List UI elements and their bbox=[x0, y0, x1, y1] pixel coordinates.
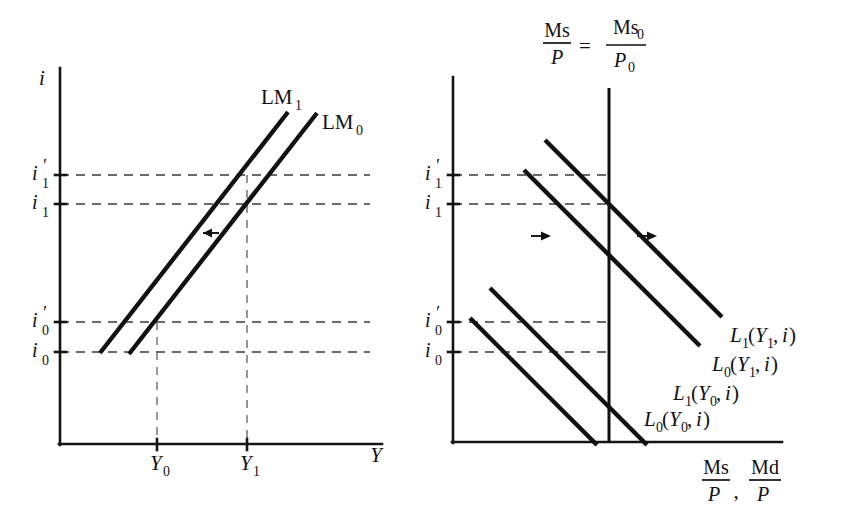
svg-text:,: , bbox=[733, 479, 738, 503]
svg-text:LM: LM bbox=[261, 85, 293, 109]
curve-L0-Y1 bbox=[524, 170, 700, 346]
svg-text:Y: Y bbox=[240, 451, 254, 475]
lm-shift-arrow bbox=[203, 229, 219, 238]
svg-text:′: ′ bbox=[435, 156, 440, 176]
curve-L1-Y1 bbox=[545, 140, 722, 317]
svg-text:,: , bbox=[755, 352, 760, 376]
right-ytick-label-i1: i 1 bbox=[425, 191, 442, 220]
svg-text:(: ( bbox=[730, 352, 737, 376]
curve-lm1 bbox=[100, 112, 288, 353]
right-ytick-label-i1prime: i ′ 1 bbox=[425, 156, 442, 191]
right-ytick-label-i0: i 0 bbox=[425, 339, 442, 368]
svg-text:′: ′ bbox=[435, 303, 440, 323]
left-ytick-label-i1prime: i ′ 1 bbox=[32, 156, 49, 191]
svg-text:Y: Y bbox=[150, 451, 164, 475]
curve-label-L1-Y1: L 1 ( Y 1 , i ) bbox=[729, 323, 796, 351]
svg-text:,: , bbox=[716, 381, 721, 405]
svg-text:0: 0 bbox=[435, 353, 442, 368]
svg-text:=: = bbox=[579, 34, 591, 58]
svg-text:i: i bbox=[764, 352, 770, 376]
figure-canvas: i Y i ′ 1 i 1 i ′ 0 i 0 Y 0 Y 1 bbox=[0, 0, 868, 526]
svg-text:,: , bbox=[687, 407, 692, 431]
svg-text:): ) bbox=[732, 381, 739, 405]
svg-text:i: i bbox=[696, 407, 702, 431]
svg-text:0: 0 bbox=[163, 464, 170, 479]
curve-label-L1-Y0: L 1 ( Y 0 , i ) bbox=[672, 381, 739, 409]
svg-text:LM: LM bbox=[322, 110, 354, 134]
right-ytick-label-i0prime: i ′ 0 bbox=[425, 303, 442, 338]
svg-text:i: i bbox=[425, 309, 431, 331]
svg-text:1: 1 bbox=[42, 176, 49, 191]
left-ytick-label-i0: i 0 bbox=[32, 339, 49, 368]
svg-text:P: P bbox=[756, 483, 769, 505]
svg-text:P: P bbox=[613, 49, 626, 71]
svg-text:P: P bbox=[707, 483, 720, 505]
svg-text:′: ′ bbox=[42, 303, 47, 323]
curve-label-L0-Y1: L 0 ( Y 1 , i ) bbox=[711, 352, 778, 380]
svg-text:i: i bbox=[782, 323, 788, 347]
svg-text:i: i bbox=[425, 191, 431, 213]
svg-text:P: P bbox=[550, 46, 563, 68]
svg-text:1: 1 bbox=[435, 176, 442, 191]
svg-text:i: i bbox=[32, 162, 38, 184]
svg-text:Md: Md bbox=[751, 456, 779, 478]
svg-text:′: ′ bbox=[42, 156, 47, 176]
left-xtick-label-Y0: Y 0 bbox=[150, 451, 170, 479]
svg-text:(: ( bbox=[748, 323, 755, 347]
svg-text:(: ( bbox=[662, 407, 669, 431]
svg-text:,: , bbox=[773, 323, 778, 347]
svg-text:0: 0 bbox=[637, 27, 644, 42]
svg-text:): ) bbox=[703, 407, 710, 431]
svg-text:0: 0 bbox=[356, 123, 363, 138]
left-ytick-label-i0prime: i ′ 0 bbox=[32, 303, 49, 338]
svg-text:0: 0 bbox=[435, 323, 442, 338]
svg-text:): ) bbox=[789, 323, 796, 347]
left-y-axis-label: i bbox=[39, 66, 45, 90]
svg-text:1: 1 bbox=[295, 98, 302, 113]
curve-label-lm0: LM 0 bbox=[322, 110, 363, 138]
svg-text:Ms: Ms bbox=[544, 19, 570, 41]
lm-curve-panel: i Y i ′ 1 i 1 i ′ 0 i 0 Y 0 Y 1 bbox=[32, 66, 384, 479]
svg-text:i: i bbox=[425, 339, 431, 361]
left-xtick-label-Y1: Y 1 bbox=[240, 451, 260, 479]
svg-text:0: 0 bbox=[42, 323, 49, 338]
left-x-axis-label: Y bbox=[370, 443, 384, 467]
svg-text:Ms: Ms bbox=[613, 16, 639, 38]
svg-text:L: L bbox=[711, 352, 724, 376]
left-ytick-label-i1: i 1 bbox=[32, 191, 49, 220]
money-demand-shift-arrow-left bbox=[531, 232, 551, 241]
curve-L0-Y0 bbox=[470, 318, 597, 445]
svg-text:L: L bbox=[729, 323, 742, 347]
svg-text:i: i bbox=[32, 191, 38, 213]
svg-text:0: 0 bbox=[628, 60, 635, 75]
right-x-axis-label: Ms P , Md P bbox=[702, 456, 781, 505]
svg-text:(: ( bbox=[691, 381, 698, 405]
svg-text:Ms: Ms bbox=[703, 456, 729, 478]
svg-text:1: 1 bbox=[435, 205, 442, 220]
money-supply-title: Ms P = Ms 0 P 0 bbox=[543, 16, 646, 75]
curve-L1-Y0 bbox=[490, 288, 647, 445]
svg-text:i: i bbox=[725, 381, 731, 405]
svg-text:1: 1 bbox=[42, 205, 49, 220]
curve-label-L0-Y0: L 0 ( Y 0 , i ) bbox=[643, 407, 710, 435]
svg-text:1: 1 bbox=[253, 464, 260, 479]
economics-figure: i Y i ′ 1 i 1 i ′ 0 i 0 Y 0 Y 1 bbox=[0, 0, 868, 526]
curve-label-lm1: LM 1 bbox=[261, 85, 302, 113]
svg-text:i: i bbox=[425, 162, 431, 184]
svg-text:): ) bbox=[771, 352, 778, 376]
svg-text:L: L bbox=[643, 407, 656, 431]
svg-text:0: 0 bbox=[42, 353, 49, 368]
svg-text:i: i bbox=[32, 339, 38, 361]
svg-text:L: L bbox=[672, 381, 685, 405]
money-market-panel: i ′ 1 i 1 i ′ 0 i 0 Ms P = Ms 0 P 0 bbox=[425, 16, 796, 505]
curve-lm0 bbox=[129, 113, 317, 354]
svg-text:i: i bbox=[32, 309, 38, 331]
